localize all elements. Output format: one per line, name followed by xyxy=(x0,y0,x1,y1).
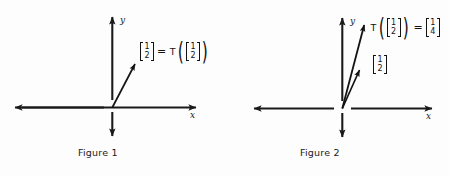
figure-2-input-vector-label: 1 2 xyxy=(373,55,387,74)
figure-1-x-axis-label: x xyxy=(190,110,195,120)
figure-1-equation-label: 1 2 = T ( 1 2 ) xyxy=(140,42,210,61)
vector-entry: 2 xyxy=(378,65,383,74)
figure-2-input-column-vector: 1 2 xyxy=(373,55,387,74)
bracket-right xyxy=(384,55,387,74)
figure-1-identity-vector xyxy=(112,64,135,108)
bracket-right xyxy=(437,18,440,37)
vector-entry: 2 xyxy=(391,28,396,37)
bracket-right xyxy=(151,42,154,61)
figure-2-y-axis-label: y xyxy=(350,16,355,26)
vector-entry: 2 xyxy=(145,52,150,61)
vector-entry: 4 xyxy=(430,28,435,37)
equals-sign: = xyxy=(410,22,425,33)
figure-2-caption: Figure 2 xyxy=(300,147,340,158)
figure-2-equation-label: T ( 1 2 ) = 1 4 xyxy=(370,18,440,37)
figure-2-x-axis-label: x xyxy=(426,111,431,121)
equals-sign: = xyxy=(154,46,169,57)
vector-entry: 2 xyxy=(190,52,195,61)
figure-1-lhs-column-vector: 1 2 xyxy=(140,42,154,61)
figure-2-result-column-vector: 1 4 xyxy=(426,18,440,37)
figure-2-transformed-vector xyxy=(342,25,364,109)
bracket-right xyxy=(398,18,401,37)
figure-1-argument-column-vector: 1 2 xyxy=(186,42,200,61)
figure-2-vectors xyxy=(342,25,364,109)
transform-operator-symbol: T xyxy=(370,23,377,33)
figure-board: y x 1 2 = T ( 1 2 ) Figure 1 y x T ( xyxy=(0,0,449,176)
figure-1-caption: Figure 1 xyxy=(78,147,118,158)
figure-2-argument-column-vector: 1 2 xyxy=(387,18,401,37)
figure-1-axes xyxy=(15,17,196,136)
transform-operator-symbol: T xyxy=(169,47,176,57)
figure-1-vectors xyxy=(112,64,135,108)
bracket-right xyxy=(197,42,200,61)
figure-1-y-axis-label: y xyxy=(120,15,125,25)
